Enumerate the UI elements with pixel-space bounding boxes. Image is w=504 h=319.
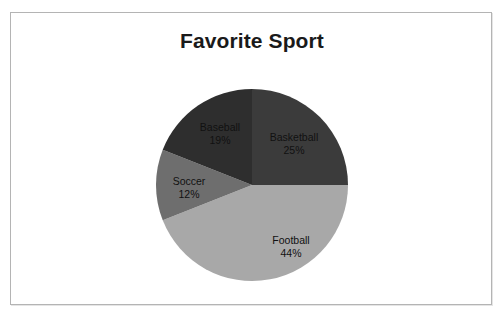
pie-chart-svg: [11, 13, 493, 306]
pie-slice-group: [156, 89, 348, 281]
chart-frame: Favorite Sport Basketball 25% Football 4…: [10, 12, 492, 305]
pie-chart: Basketball 25% Football 44% Soccer 12% B…: [11, 13, 493, 306]
screenshot-root: Favorite Sport Basketball 25% Football 4…: [0, 0, 504, 319]
pie-slice-basketball: [252, 89, 348, 185]
